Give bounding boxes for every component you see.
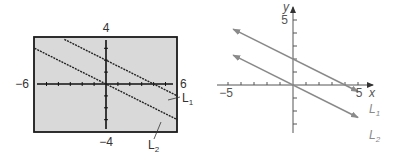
ymax-label: 4 [103,21,110,35]
calculator-graph-figure: 4 −4 −6 6 L1 L2 [0,0,201,166]
l2-label: L2 [369,128,381,144]
line-l1 [233,29,358,91]
xmin-label: −6 [15,77,29,91]
l1-label: L1 [182,91,194,107]
calculator-graph-svg: 4 −4 −6 6 L1 L2 [0,0,201,166]
y-axis-label: y [282,0,290,14]
x-axis-label: x [368,86,376,100]
x-neg5-label: −5 [219,86,233,100]
x-pos5-label: 5 [356,86,363,100]
l2-label: L2 [148,138,160,154]
ymin-label: −4 [99,135,113,149]
coordinate-plane-figure: −5 5 5 x y L1 L2 [201,0,402,166]
y-pos5-label: 5 [281,13,288,27]
line-l2 [233,55,358,117]
l1-label: L1 [369,102,380,118]
xmax-label: 6 [180,77,187,91]
coordinate-plane-svg: −5 5 5 x y L1 L2 [201,0,402,166]
